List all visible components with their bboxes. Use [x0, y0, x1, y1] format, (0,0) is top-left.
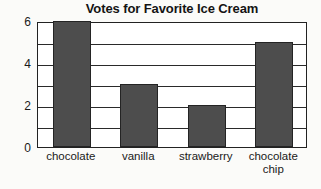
chart-title: Votes for Favorite Ice Cream: [37, 1, 307, 16]
x-axis: chocolatevanillastrawberrychocolate chip: [37, 150, 307, 189]
y-tick-label: 0: [0, 142, 31, 154]
bar: [53, 21, 91, 147]
bar: [188, 105, 226, 147]
y-tick-label: 4: [0, 58, 31, 70]
y-tick-label: 2: [0, 100, 31, 112]
bar: [255, 42, 293, 147]
plot-area: [37, 22, 307, 148]
x-tick-label: chocolate chip: [240, 150, 308, 176]
y-tick-label: 6: [0, 16, 31, 28]
bar: [120, 84, 158, 147]
chart-screenshot: Votes for Favorite Ice Cream 0246 chocol…: [0, 0, 321, 189]
x-tick-label: chocolate: [37, 150, 105, 163]
x-tick-label: strawberry: [172, 150, 240, 163]
y-axis: 0246: [0, 22, 31, 148]
x-tick-label: vanilla: [105, 150, 173, 163]
